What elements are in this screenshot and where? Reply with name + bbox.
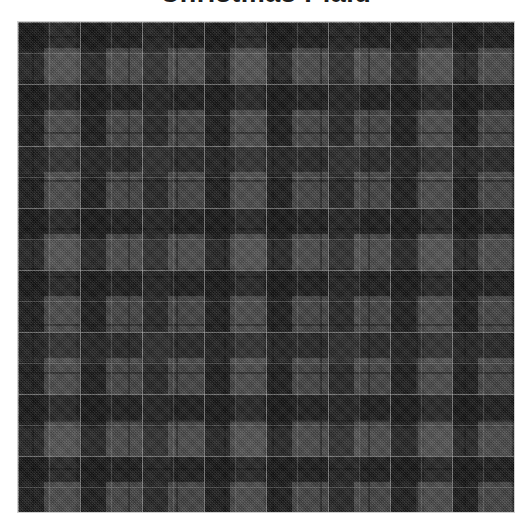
page-title: Christmas Plaid	[0, 0, 531, 6]
plaid-fabric-swatch	[18, 22, 514, 512]
tone-adjust-layer	[18, 22, 514, 512]
page-title-clip: Christmas Plaid	[0, 0, 531, 6]
page-root: Christmas Plaid	[0, 0, 531, 525]
